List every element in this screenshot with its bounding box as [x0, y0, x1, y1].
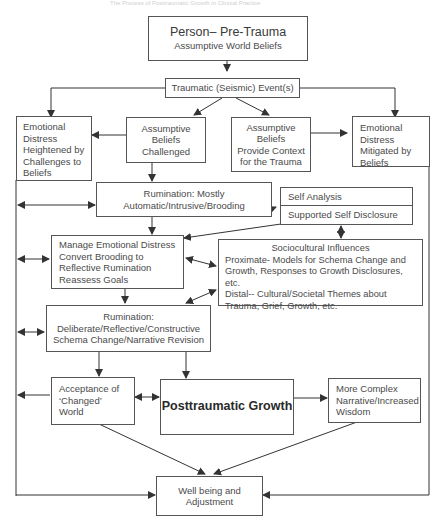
beliefs-context-line: for the Trauma	[240, 156, 302, 168]
node-complex-narrative: More Complex Narrative/Increased Wisdom	[328, 378, 421, 423]
sociocultural-title: Sociocultural Influences	[225, 243, 416, 255]
acceptance-line: Acceptance of	[59, 383, 127, 395]
node-manage-distress: Manage Emotional Distress Convert Broodi…	[51, 235, 184, 289]
manage-distress-line: Convert Brooding to	[59, 251, 176, 263]
acceptance-line: World	[59, 406, 127, 418]
manage-distress-line: Manage Emotional Distress	[59, 239, 176, 251]
complex-narrative-line: Narrative/Increased	[336, 395, 413, 407]
node-beliefs-challenged: Assumptive Beliefs Challenged	[126, 117, 206, 163]
sociocultural-line: Growth, Responses to Growth Disclosures,…	[225, 266, 416, 289]
node-distress-heightened: Emotional Distress Heightened by Challen…	[16, 116, 92, 181]
rumination-automatic-line: Rumination: Mostly	[144, 188, 225, 200]
distress-heightened-line: Beliefs	[23, 167, 85, 179]
complex-narrative-line: More Complex	[336, 383, 413, 395]
distress-heightened-line: Distress	[23, 133, 85, 145]
beliefs-context-line: Beliefs	[257, 133, 286, 145]
distress-heightened-line: Heightened by	[23, 144, 85, 156]
beliefs-challenged-line: Assumptive	[141, 123, 190, 135]
supported-disclosure-cell: Supported Self Disclosure	[281, 206, 412, 221]
node-rumination-deliberate: Rumination: Deliberate/Reflective/Constr…	[46, 305, 211, 352]
pre-trauma-subtitle: Assumptive World Beliefs	[174, 40, 282, 52]
sociocultural-line: Trauma, Grief, Growth, etc.	[225, 301, 416, 313]
sociocultural-line: Proximate- Models for Schema Change and	[225, 255, 416, 267]
self-analysis-cell: Self Analysis	[281, 188, 412, 206]
beliefs-context-line: Assumptive	[246, 122, 295, 134]
rumination-deliberate-line: Deliberate/Reflective/Constructive	[57, 323, 200, 335]
distress-heightened-line: Emotional	[23, 121, 85, 133]
node-traumatic-event: Traumatic (Seismic) Event(s)	[165, 78, 300, 98]
node-posttraumatic-growth: Posttraumatic Growth	[160, 379, 294, 435]
node-beliefs-context: Assumptive Beliefs Provide Context for t…	[231, 117, 311, 172]
sociocultural-line: Distal-- Cultural/Societal Themes about	[225, 289, 416, 301]
wellbeing-line: Adjustment	[186, 496, 234, 508]
traumatic-event-label: Traumatic (Seismic) Event(s)	[171, 82, 293, 94]
manage-distress-line: Reflective Rumination	[59, 262, 176, 274]
node-pre-trauma: Person– Pre-Trauma Assumptive World Beli…	[148, 16, 308, 61]
rumination-automatic-line: Automatic/Intrusive/Brooding	[123, 200, 244, 212]
distress-mitigated-line: Mitigated by	[360, 145, 422, 157]
self-analysis-label: Self Analysis	[288, 191, 342, 202]
beliefs-context-line: Provide Context	[237, 145, 305, 157]
node-rumination-automatic: Rumination: Mostly Automatic/Intrusive/B…	[96, 182, 272, 217]
ptg-label: Posttraumatic Growth	[162, 401, 293, 413]
beliefs-challenged-line: Beliefs	[152, 134, 181, 146]
distress-mitigated-line: Distress	[360, 134, 422, 146]
supported-disclosure-label: Supported Self Disclosure	[288, 209, 398, 220]
beliefs-challenged-line: Challenged	[142, 146, 190, 158]
node-acceptance: Acceptance of ‘Changed’ World	[51, 377, 135, 425]
distress-heightened-line: Challenges to	[23, 156, 85, 168]
distress-mitigated-line: Beliefs	[360, 157, 422, 169]
distress-mitigated-line: Emotional	[360, 122, 422, 134]
node-distress-mitigated: Emotional Distress Mitigated by Beliefs	[352, 116, 430, 167]
rumination-deliberate-line: Schema Change/Narrative Revision	[53, 334, 204, 346]
node-wellbeing: Well being and Adjustment	[156, 476, 263, 516]
pre-trauma-title: Person– Pre-Trauma	[170, 25, 286, 40]
node-self-disclosure-group: Self Analysis Supported Self Disclosure	[280, 187, 413, 225]
node-sociocultural: Sociocultural Influences Proximate- Mode…	[218, 239, 423, 306]
complex-narrative-line: Wisdom	[336, 406, 413, 418]
wellbeing-line: Well being and	[178, 485, 241, 497]
manage-distress-line: Reassess Goals	[59, 274, 176, 286]
rumination-deliberate-line: Rumination:	[103, 311, 154, 323]
acceptance-line: ‘Changed’	[59, 395, 127, 407]
